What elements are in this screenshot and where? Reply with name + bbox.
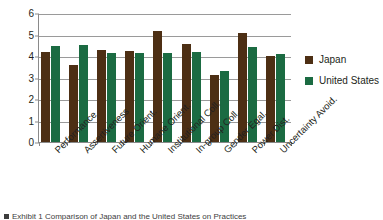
chart-legend: JapanUnited States (305, 55, 383, 97)
bar-chart-figure: 0123456 JapanUnited States Exhibit 1 Com… (0, 0, 383, 220)
legend-swatch-icon (305, 56, 313, 64)
y-axis-tick-label: 2 (28, 95, 34, 105)
bar (51, 46, 60, 142)
y-axis-tick-label: 3 (28, 74, 34, 84)
caption-bullet-icon (4, 214, 9, 219)
legend-label: Japan (319, 55, 346, 65)
figure-caption: Exhibit 1 Comparison of Japan and the Un… (4, 212, 383, 220)
y-axis-tick-label: 6 (28, 9, 34, 19)
x-tick-mark (39, 142, 40, 146)
bar (41, 52, 50, 142)
legend-item[interactable]: Japan (305, 55, 383, 65)
y-axis-tick-label: 5 (28, 31, 34, 41)
legend-label: United States (319, 76, 379, 86)
bar-group (39, 14, 67, 142)
legend-item[interactable]: United States (305, 76, 383, 86)
caption-text: Exhibit 1 Comparison of Japan and the Un… (12, 212, 246, 220)
y-axis-tick-label: 0 (28, 138, 34, 148)
legend-swatch-icon (305, 77, 313, 85)
y-axis-tick-label: 4 (28, 52, 34, 62)
y-axis-tick-label: 1 (28, 117, 34, 127)
